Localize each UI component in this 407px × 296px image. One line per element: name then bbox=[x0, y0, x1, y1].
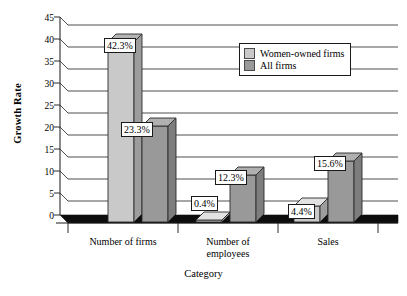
legend-item-all-firms: All firms bbox=[244, 60, 344, 71]
data-label-all-firms-sales: 15.6% bbox=[314, 156, 346, 171]
x-category-label-0: Number of firms bbox=[58, 236, 188, 248]
x-category-label-0-line-0: Number of firms bbox=[58, 236, 188, 248]
legend: Women-owned firms All firms bbox=[239, 43, 351, 76]
data-label-all-firms-employees: 12.3% bbox=[215, 170, 247, 185]
x-category-label-2-line-0: Sales bbox=[278, 236, 378, 248]
x-category-label-1: Number of employees bbox=[173, 236, 283, 260]
x-category-label-1-line-1: employees bbox=[173, 248, 283, 260]
bar-chart: Growth Rate 45 40 35 30 25 20 15 10 5 0 bbox=[0, 0, 407, 296]
legend-item-women-owned-firms: Women-owned firms bbox=[244, 48, 344, 59]
data-label-all-firms-firms: 23.3% bbox=[121, 122, 153, 137]
legend-label-women-owned-firms: Women-owned firms bbox=[260, 48, 344, 59]
x-axis-title: Category bbox=[0, 268, 407, 279]
legend-swatch-all-firms bbox=[244, 60, 255, 71]
data-label-women-owned-employees: 0.4% bbox=[191, 196, 218, 211]
gridline-45 bbox=[60, 17, 398, 25]
x-category-label-2: Sales bbox=[278, 236, 378, 248]
legend-swatch-women-owned-firms bbox=[244, 48, 255, 59]
data-label-women-owned-sales: 4.4% bbox=[288, 204, 315, 219]
data-label-women-owned-firms: 42.3% bbox=[104, 38, 136, 53]
legend-label-all-firms: All firms bbox=[260, 60, 296, 71]
x-category-label-1-line-0: Number of bbox=[173, 236, 283, 248]
